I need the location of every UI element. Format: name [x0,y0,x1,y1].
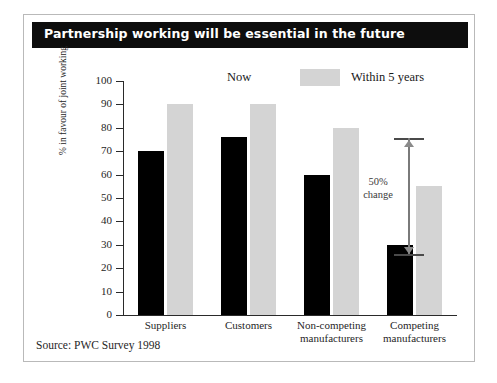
y-axis-tick-label: 30 [101,238,112,250]
annotation-line-1: 50% [355,176,401,189]
plot-area: % in favour of joint working 01020304050… [102,81,457,321]
y-axis-tick: 50 [116,198,124,199]
y-axis-tick-label: 70 [101,144,112,156]
x-axis-line [123,315,457,316]
y-axis-tick-label: 20 [101,261,112,273]
y-axis-tick-label: 90 [101,97,112,109]
bar-future [250,104,276,315]
x-axis-category-label: Competingmanufacturers [373,319,456,344]
page-title: Partnership working will be essential in… [44,26,405,41]
bar-now [304,175,330,315]
y-axis-label: % in favour of joint working [58,46,68,155]
y-axis-tick-label: 100 [96,74,113,86]
y-axis-tick-label: 50 [101,191,112,203]
y-axis-tick-label: 0 [107,308,113,320]
bar-now [221,137,247,315]
bar-group: Suppliers [124,81,207,315]
annotation-cap-bottom [394,254,424,256]
x-axis-category-line: Customers [207,319,290,332]
bar-future [167,104,193,315]
title-bar: Partnership working will be essential in… [32,22,468,48]
y-axis-tick: 40 [116,221,124,222]
source-note: Source: PWC Survey 1998 [36,339,160,351]
y-axis-tick: 20 [116,268,124,269]
y-axis-tick-label: 10 [101,285,112,297]
change-annotation: 50% change [355,138,425,258]
y-axis-tick: 30 [116,245,124,246]
annotation-line-2: change [355,189,401,202]
y-axis-tick-label: 40 [101,214,112,226]
annotation-arrowhead-down-icon [404,247,414,254]
x-axis-category-label: Suppliers [124,319,207,332]
x-axis-category-line: manufacturers [290,332,373,345]
bar-now [138,151,164,315]
y-axis-tick: 60 [116,175,124,176]
annotation-text: 50% change [355,176,401,201]
x-axis-category-label: Customers [207,319,290,332]
x-axis-category-line: Competing [373,319,456,332]
x-axis-category-line: manufacturers [373,332,456,345]
x-axis-category-line: Suppliers [124,319,207,332]
chart-figure: Partnership working will be essential in… [23,14,475,362]
y-axis-tick: 100 [116,81,124,82]
y-axis-tick: 90 [116,104,124,105]
y-axis-tick: 10 [116,292,124,293]
y-axis-tick-label: 60 [101,168,112,180]
x-axis-category-line: Non-competing [290,319,373,332]
annotation-arrowhead-up-icon [404,140,414,147]
bar-group: Customers [207,81,290,315]
y-axis-tick: 80 [116,128,124,129]
y-axis-tick: 0 [116,315,124,316]
y-axis-tick: 70 [116,151,124,152]
y-axis-tick-label: 80 [101,121,112,133]
annotation-arrow-line [408,138,410,256]
x-axis-category-label: Non-competingmanufacturers [290,319,373,344]
